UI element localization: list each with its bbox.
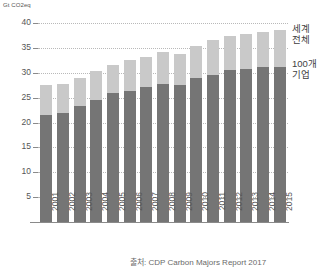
bar-segment-world bbox=[40, 85, 52, 115]
bar-segment-world bbox=[74, 78, 86, 106]
bar-segment-world bbox=[274, 30, 286, 66]
x-tick-label-2011: 2011 bbox=[217, 192, 227, 226]
x-tick-label-2003: 2003 bbox=[84, 192, 94, 226]
y-tick-label-15: 15 bbox=[3, 142, 31, 151]
y-tick-mark-15 bbox=[33, 147, 38, 148]
bar-segment-world bbox=[124, 60, 136, 91]
x-tick-label-2002: 2002 bbox=[67, 192, 77, 226]
y-tick-label-30: 30 bbox=[3, 68, 31, 77]
legend-world-line1: 세계 bbox=[292, 23, 310, 34]
bar-segment-world bbox=[174, 54, 186, 85]
y-tick-mark-25 bbox=[33, 98, 38, 99]
x-tick-label-2012: 2012 bbox=[234, 192, 244, 226]
y-tick-mark-20 bbox=[33, 123, 38, 124]
legend-world-line2: 전체 bbox=[292, 34, 310, 45]
y-tick-mark-35 bbox=[33, 48, 38, 49]
bar-segment-world bbox=[140, 57, 152, 87]
y-tick-label-35: 35 bbox=[3, 43, 31, 52]
y-tick-mark-5 bbox=[33, 197, 38, 198]
bar-segment-world bbox=[240, 34, 252, 69]
y-axis-unit-label: Gt CO2eq bbox=[3, 1, 31, 9]
y-tick-label-10: 10 bbox=[3, 167, 31, 176]
x-tick-label-2007: 2007 bbox=[150, 192, 160, 226]
legend-item-top100-companies: 100개 기업 bbox=[292, 58, 317, 80]
x-tick-label-2014: 2014 bbox=[267, 192, 277, 226]
source-caption: 출처: CDP Carbon Majors Report 2017 bbox=[130, 258, 266, 268]
y-tick-mark-40 bbox=[33, 23, 38, 24]
bar-segment-world bbox=[207, 40, 219, 74]
x-tick-label-2008: 2008 bbox=[167, 192, 177, 226]
y-tick-label-25: 25 bbox=[3, 93, 31, 102]
x-tick-label-2004: 2004 bbox=[100, 192, 110, 226]
x-tick-label-2006: 2006 bbox=[134, 192, 144, 226]
x-tick-label-2001: 2001 bbox=[50, 192, 60, 226]
bar-segment-world bbox=[57, 84, 69, 112]
y-tick-mark-30 bbox=[33, 73, 38, 74]
y-tick-mark-10 bbox=[33, 172, 38, 173]
bar-segment-world bbox=[190, 46, 202, 78]
legend-companies-line2: 기업 bbox=[292, 69, 317, 80]
legend-companies-line1: 100개 bbox=[292, 58, 317, 69]
x-tick-label-2009: 2009 bbox=[184, 192, 194, 226]
y-tick-label-5: 5 bbox=[3, 192, 31, 201]
x-tick-label-2013: 2013 bbox=[250, 192, 260, 226]
legend-item-world-total: 세계 전체 bbox=[292, 23, 310, 45]
x-tick-label-2015: 2015 bbox=[284, 192, 294, 226]
bar-segment-world bbox=[224, 36, 236, 70]
y-tick-label-40: 40 bbox=[3, 18, 31, 27]
bar-segment-world bbox=[107, 65, 119, 93]
bar-segment-world bbox=[257, 32, 269, 67]
x-tick-label-2010: 2010 bbox=[200, 192, 210, 226]
bar-segment-world bbox=[90, 71, 102, 100]
bar-segment-world bbox=[157, 52, 169, 83]
y-tick-label-20: 20 bbox=[3, 118, 31, 127]
x-tick-label-2005: 2005 bbox=[117, 192, 127, 226]
